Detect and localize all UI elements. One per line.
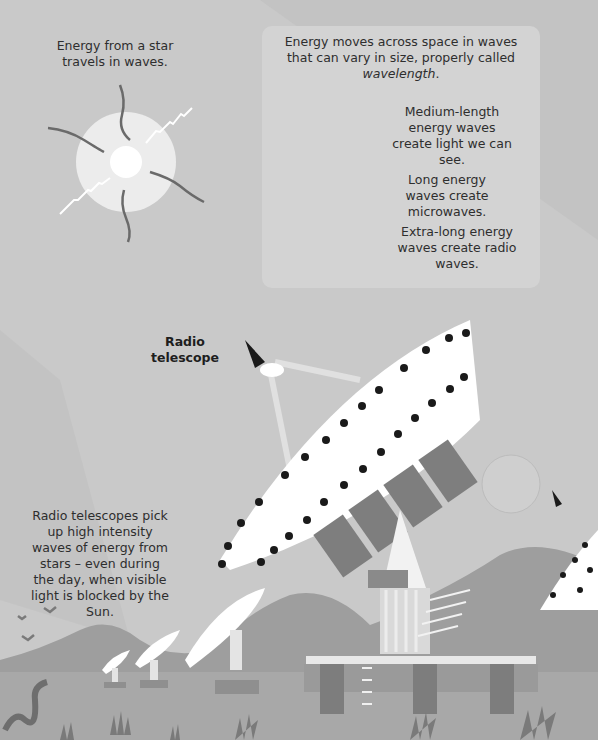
star-icon: [48, 85, 204, 242]
intro-text: Energy moves across space in waves that …: [285, 34, 518, 65]
radio-telescope-label: Radio telescope: [135, 334, 235, 366]
radio-telescope-caption: Radio telescopes pick up high intensity …: [30, 508, 170, 620]
intro-term: wavelength: [363, 66, 436, 81]
wavelength-intro: Energy moves across space in waves that …: [270, 34, 532, 82]
long-wave-label: Long energy waves create microwaves.: [392, 172, 502, 220]
extra-long-wave-label: Extra-long energy waves create radio wav…: [392, 224, 522, 272]
medium-wave-label: Medium-length energy waves create light …: [390, 104, 514, 168]
star-caption: Energy from a star travels in waves.: [40, 38, 190, 70]
